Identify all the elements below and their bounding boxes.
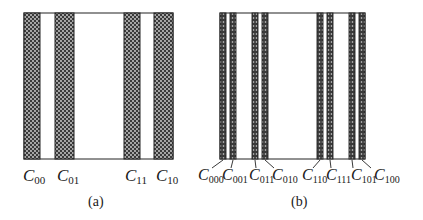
label-c000: C000	[198, 166, 224, 185]
panel-a-frame	[24, 13, 173, 159]
panel-b-frame	[220, 13, 365, 159]
stripe-c110	[317, 13, 323, 159]
stripe-c011	[252, 13, 258, 159]
stripe-c001	[230, 13, 236, 159]
stripe-c01	[55, 13, 74, 159]
label-c111: C111	[326, 166, 351, 185]
stripe-c100	[359, 13, 365, 159]
label-c10: C10	[156, 166, 179, 186]
panel-b: C000 C001 C011 C010 C110 C111 C101 C100 …	[198, 13, 400, 210]
label-c101: C101	[351, 166, 377, 185]
stripe-c00	[24, 13, 40, 159]
panel-a: C00 C01 C11 C10 (a)	[23, 13, 179, 210]
label-c00: C00	[23, 166, 46, 186]
leader-lines	[212, 160, 371, 168]
label-c11: C11	[125, 166, 147, 186]
label-c010: C010	[272, 166, 298, 185]
stripe-c000	[220, 13, 226, 159]
label-c01: C01	[57, 166, 79, 186]
stripe-c101	[349, 13, 355, 159]
stripe-c010	[262, 13, 268, 159]
label-c001: C001	[222, 166, 248, 185]
caption-b: (b)	[291, 194, 308, 210]
label-c011: C011	[249, 166, 274, 185]
stripe-c10	[154, 13, 173, 159]
stripe-c11	[124, 13, 140, 159]
label-c100: C100	[374, 166, 400, 185]
label-c110: C110	[302, 166, 327, 185]
caption-a: (a)	[88, 194, 104, 210]
stripe-c111	[327, 13, 333, 159]
gray-code-stripes-figure: C00 C01 C11 C10 (a) C000 C001 C011 C010	[0, 0, 423, 220]
